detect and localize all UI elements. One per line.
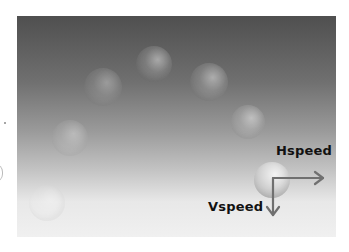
vspeed-arrow-icon [267, 178, 279, 215]
hspeed-label: Hspeed [276, 144, 332, 157]
vspeed-label: Vspeed [208, 200, 263, 213]
velocity-vectors [0, 0, 349, 252]
hspeed-arrow-icon [273, 172, 323, 184]
